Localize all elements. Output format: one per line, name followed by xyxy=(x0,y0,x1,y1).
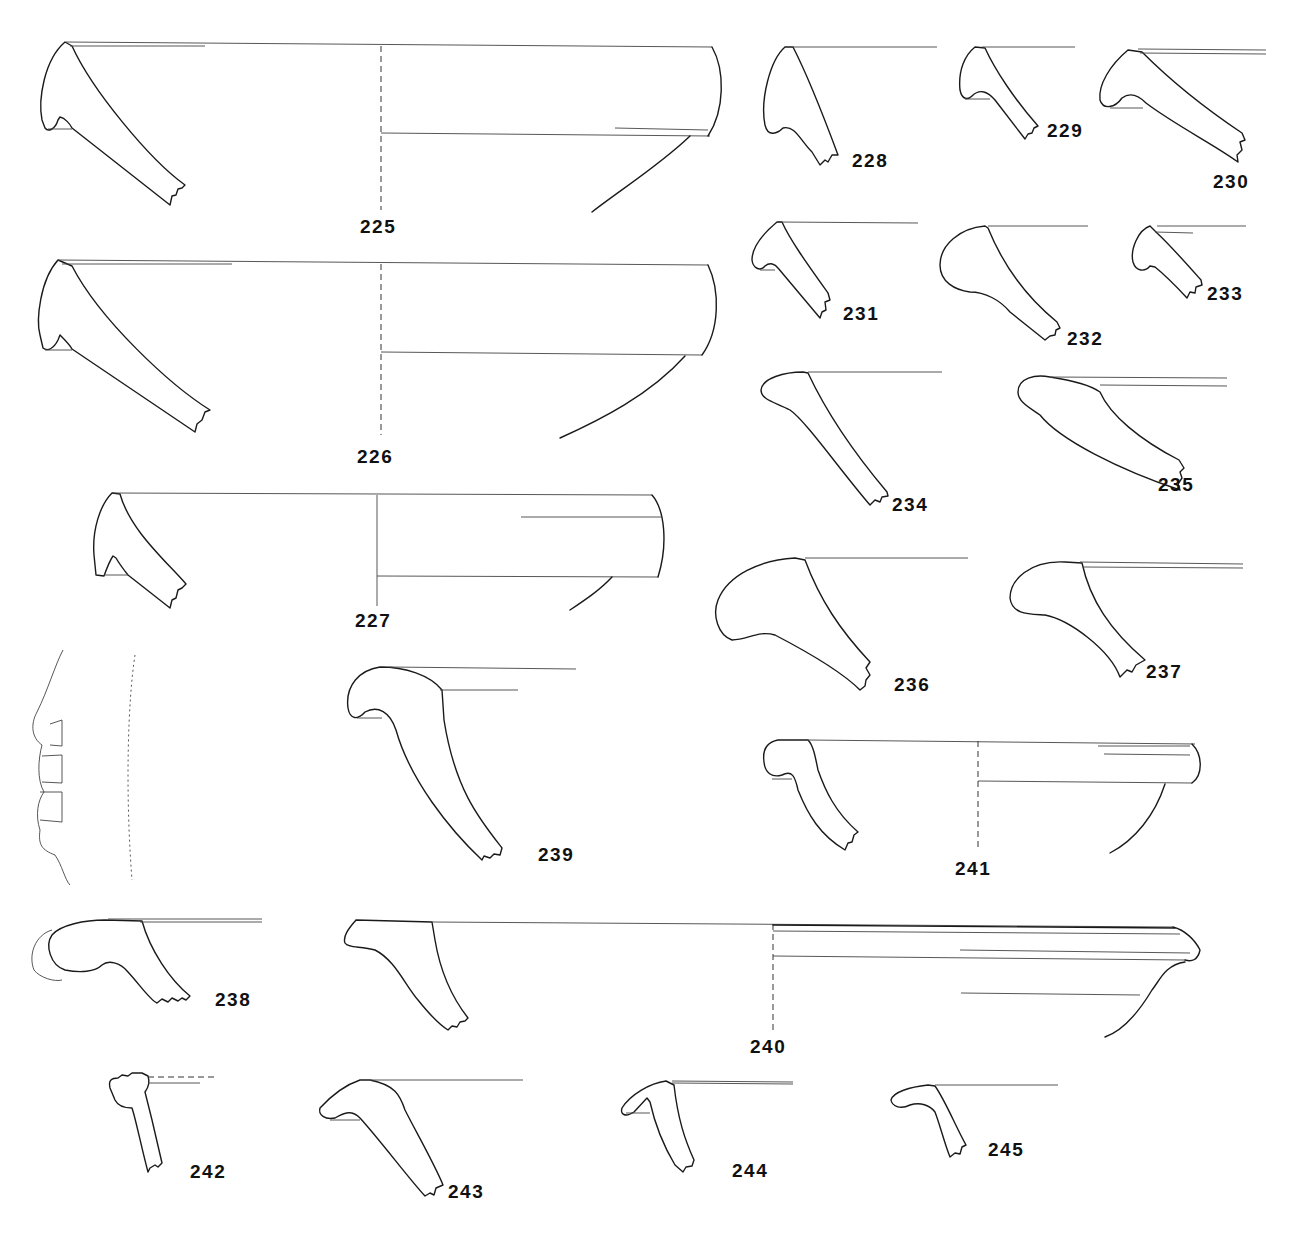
label-236: 236 xyxy=(894,674,930,696)
profile-227 xyxy=(94,493,664,610)
profile-231 xyxy=(752,222,918,318)
profile-226 xyxy=(39,260,717,438)
label-235: 235 xyxy=(1158,474,1194,496)
drawing-plate: 225 226 227 228 229 230 231 232 233 234 … xyxy=(0,0,1300,1235)
label-239: 239 xyxy=(538,844,574,866)
label-229: 229 xyxy=(1047,120,1083,142)
label-244: 244 xyxy=(732,1160,768,1182)
profile-245 xyxy=(891,1085,1058,1157)
label-243: 243 xyxy=(448,1181,484,1203)
label-234: 234 xyxy=(892,494,928,516)
profile-228 xyxy=(764,47,937,165)
profile-232 xyxy=(940,226,1088,340)
label-237: 237 xyxy=(1146,661,1182,683)
profile-242 xyxy=(109,1073,215,1172)
label-245: 245 xyxy=(988,1139,1024,1161)
profile-240 xyxy=(344,920,1200,1037)
label-242: 242 xyxy=(190,1161,226,1183)
label-225: 225 xyxy=(360,216,396,238)
label-241: 241 xyxy=(955,858,991,880)
label-232: 232 xyxy=(1067,328,1103,350)
label-238: 238 xyxy=(215,989,251,1011)
profile-234 xyxy=(761,372,942,505)
vessel-exterior-sketch xyxy=(33,650,135,885)
profile-230 xyxy=(1100,49,1266,162)
label-240: 240 xyxy=(750,1036,786,1058)
label-226: 226 xyxy=(357,446,393,468)
label-227: 227 xyxy=(355,610,391,632)
label-231: 231 xyxy=(843,303,879,325)
profiles-svg xyxy=(0,0,1300,1235)
label-233: 233 xyxy=(1207,283,1243,305)
profile-243 xyxy=(320,1080,523,1196)
profile-237 xyxy=(1010,562,1243,677)
profile-235 xyxy=(1018,376,1227,490)
profile-236 xyxy=(716,558,968,690)
profile-244 xyxy=(622,1081,793,1172)
label-230: 230 xyxy=(1213,171,1249,193)
label-228: 228 xyxy=(852,150,888,172)
profile-241 xyxy=(764,740,1201,853)
profile-225 xyxy=(41,42,721,212)
profile-239 xyxy=(348,667,576,860)
